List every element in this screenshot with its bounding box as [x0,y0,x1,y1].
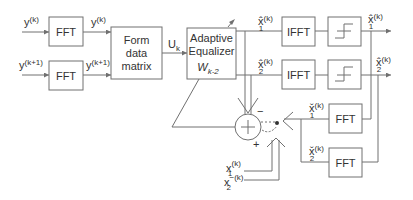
svg-text:data: data [126,47,148,59]
quantizer-block-2 [328,60,361,89]
svg-text:Form: Form [124,34,150,46]
fft-out-2-wire: y(k+1) [83,58,111,75]
svg-text:x̂(k)1: x̂(k)1 [368,12,383,31]
eq-out-1-wire: x̂(k)1 [236,14,282,33]
fft-block-bottom: FFT [49,61,83,90]
svg-text:y(k): y(k) [24,15,39,28]
svg-text:−: − [257,105,263,117]
selector-switch [261,121,279,132]
adaptive-equalizer-block: Adaptive Equalizer Wk-2 [187,28,236,79]
quantizer-block-1 [328,17,361,46]
fft-block-top: FFT [49,17,83,46]
adaptation-arrow-icon [228,19,235,27]
summing-junction [235,114,261,140]
svg-text:IFFT: IFFT [287,69,310,81]
svg-text:y(k+1): y(k+1) [19,58,43,71]
ifft-block-1: IFFT [282,17,315,46]
matrix-out-wire: Uk [162,38,187,53]
ifft-block-2: IFFT [282,60,315,89]
error-feedback-wire [172,79,235,127]
svg-text:FFT: FFT [56,26,76,38]
svg-text:y(k+1): y(k+1) [86,58,110,71]
svg-text:x−(k)2: x−(k)2 [224,173,244,192]
svg-text:FFT: FFT [335,157,355,169]
input-y-k: y(k) [22,15,49,32]
svg-text:y(k): y(k) [91,15,106,28]
svg-text:FFT: FFT [335,113,355,125]
svg-text:x̂(k)2: x̂(k)2 [376,55,391,74]
form-data-matrix-block: Form data matrix [111,27,162,79]
fb-1-wire: x̌(k)1 [284,101,329,120]
fft-feedback-block-1: FFT [329,104,362,133]
svg-text:Adaptive: Adaptive [190,32,233,44]
svg-text:x̂(k)1: x̂(k)1 [258,14,273,33]
output-1-wire: x̂(k)1 [361,12,391,31]
fb-2-wire: x̌(k)2 [301,119,329,163]
eq-out-2-wire: x̂(k)2 [236,57,282,76]
svg-text:x̌(k)1: x̌(k)1 [309,101,324,120]
adaptive-equalizer-block-diagram: y(k) y(k+1) FFT FFT y(k) y(k+1) Form dat… [0,0,413,200]
feedback-wires [362,31,378,162]
svg-text:FFT: FFT [56,70,76,82]
svg-text:x̌(k)2: x̌(k)2 [309,144,324,163]
output-2-wire: x̂(k)2 [361,55,391,75]
svg-text:Uk: Uk [168,38,181,53]
fft-out-1-wire: y(k) [83,15,111,32]
svg-text:matrix: matrix [122,60,152,72]
input-y-k-plus-1: y(k+1) [19,58,49,75]
fft-feedback-block-2: FFT [329,148,362,177]
svg-text:Equalizer: Equalizer [189,45,235,57]
svg-text:IFFT: IFFT [287,26,310,38]
svg-text:x̂(k)2: x̂(k)2 [258,57,273,76]
svg-text:+: + [253,138,259,150]
